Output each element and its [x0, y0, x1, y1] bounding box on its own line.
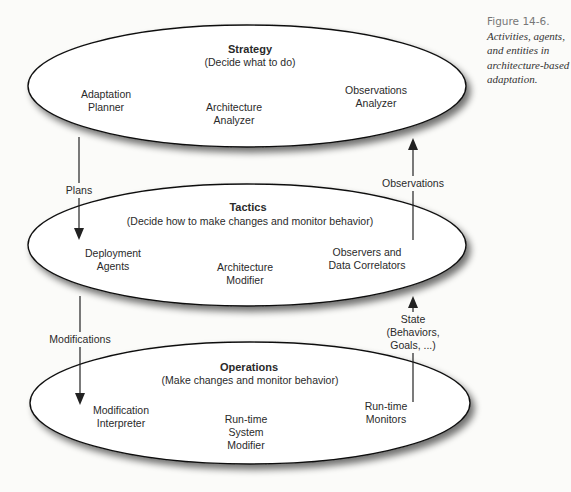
plans-label: Plans: [65, 183, 93, 198]
entity-line: Run-time: [365, 400, 408, 412]
entity-line: Planner: [88, 101, 124, 113]
observations-label: Observations: [381, 176, 445, 191]
diagram-canvas: [0, 0, 571, 492]
state-line: (Behaviors,: [386, 326, 439, 338]
entity-line: Analyzer: [214, 114, 255, 126]
entity-run-time-monitors: Run-time Monitors: [365, 400, 408, 426]
entity-deployment-agents: Deployment Agents: [85, 247, 141, 273]
entity-modification-interpreter: Modification Interpreter: [93, 404, 149, 430]
entity-line: Adaptation: [81, 88, 131, 100]
entity-line: Observers and: [333, 246, 402, 258]
entity-line: Modifier: [227, 439, 264, 451]
entity-line: Monitors: [366, 413, 406, 425]
entity-line: Modifier: [226, 274, 263, 286]
figure-caption: Figure 14-6. Activities, agents, and ent…: [487, 14, 571, 87]
figure-caption-text: Activities, agents, and entities in arch…: [487, 29, 571, 87]
state-line: State: [401, 313, 426, 325]
entity-line: System: [228, 426, 263, 438]
entity-run-time-system-modifier: Run-time System Modifier: [225, 413, 268, 452]
entity-line: Interpreter: [97, 417, 145, 429]
entity-line: Data Correlators: [328, 259, 405, 271]
entity-architecture-analyzer: Architecture Analyzer: [206, 101, 262, 127]
modifications-label: Modifications: [48, 332, 111, 347]
entity-adaptation-planner: Adaptation Planner: [81, 88, 131, 114]
state-label: State (Behaviors, Goals, ...): [385, 312, 440, 353]
entity-line: Analyzer: [356, 97, 397, 109]
entity-line: Modification: [93, 404, 149, 416]
entity-line: Agents: [97, 260, 130, 272]
figure-number: Figure 14-6.: [487, 14, 571, 29]
operations-subtitle: (Make changes and monitor behavior): [162, 374, 339, 387]
entity-line: Deployment: [85, 247, 141, 259]
entity-line: Run-time: [225, 413, 268, 425]
entity-line: Observations: [345, 84, 407, 96]
strategy-subtitle: (Decide what to do): [204, 56, 295, 69]
operations-title: Operations: [220, 361, 278, 374]
entity-observations-analyzer: Observations Analyzer: [345, 84, 407, 110]
entity-line: Architecture: [206, 101, 262, 113]
tactics-title: Tactics: [229, 201, 266, 214]
entity-line: Architecture: [217, 261, 273, 273]
tactics-subtitle: (Decide how to make changes and monitor …: [127, 215, 373, 228]
entity-architecture-modifier: Architecture Modifier: [217, 261, 273, 287]
entity-observers-data-correlators: Observers and Data Correlators: [328, 246, 405, 272]
strategy-title: Strategy: [228, 43, 272, 56]
state-line: Goals, ...): [390, 339, 436, 351]
